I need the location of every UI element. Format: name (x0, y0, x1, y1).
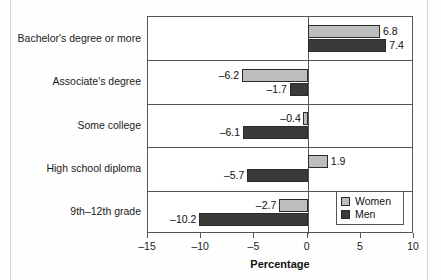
bar-value-label: 1.9 (331, 155, 346, 168)
category-label: High school diploma (5, 162, 141, 174)
x-axis-tick (253, 233, 254, 238)
bar-men[interactable] (243, 126, 308, 139)
bar-men[interactable] (247, 169, 308, 182)
legend-label: Men (355, 208, 375, 221)
x-axis-tick-label: –15 (138, 240, 156, 252)
x-axis-title: Percentage (147, 258, 413, 270)
bar-women[interactable] (303, 112, 307, 125)
bar-value-label: –5.7 (224, 169, 244, 182)
x-axis-tick-label: –10 (191, 240, 209, 252)
category-label: Bachelor's degree or more (5, 32, 141, 44)
bar-value-label: –2.7 (256, 199, 276, 212)
x-axis-tick (147, 233, 148, 238)
bar-value-label: –6.1 (220, 126, 240, 139)
bar-value-label: –6.2 (219, 69, 239, 82)
x-axis-tick (307, 233, 308, 238)
legend-swatch-icon (341, 210, 350, 219)
x-axis-tick (360, 233, 361, 238)
category-label: Associate's degree (5, 75, 141, 87)
row-separator (148, 104, 412, 105)
x-axis-tick (200, 233, 201, 238)
legend-item[interactable]: Women (341, 195, 399, 208)
chart-legend: WomenMen (336, 191, 404, 225)
bar-men[interactable] (199, 213, 308, 226)
bar-value-label: 7.4 (389, 39, 404, 52)
category-label: Some college (5, 119, 141, 131)
legend-label: Women (355, 195, 391, 208)
legend-item[interactable]: Men (341, 208, 399, 221)
category-label: 9th–12th grade (5, 205, 141, 217)
bar-men[interactable] (290, 83, 308, 96)
page-border-right (427, 0, 428, 280)
x-axis-tick-label: –5 (248, 240, 260, 252)
bar-value-label: 6.8 (383, 25, 398, 38)
legend-swatch-icon (341, 197, 350, 206)
bar-value-label: –10.2 (170, 213, 196, 226)
bar-women[interactable] (279, 199, 308, 212)
x-axis-tick-label: 10 (407, 240, 419, 252)
bar-men[interactable] (308, 39, 387, 52)
x-axis-tick (413, 233, 414, 238)
bar-value-label: –0.4 (280, 112, 300, 125)
x-axis-tick-label: 0 (304, 240, 310, 252)
row-separator (148, 147, 412, 148)
row-separator (148, 60, 412, 61)
bar-value-label: –1.7 (267, 83, 287, 96)
bar-women[interactable] (308, 155, 328, 168)
x-axis: –15–10–50510 (147, 233, 413, 234)
bar-women[interactable] (308, 25, 380, 38)
bar-women[interactable] (242, 69, 308, 82)
x-axis-tick-label: 5 (357, 240, 363, 252)
chart-page: Bachelor's degree or moreAssociate's deg… (0, 0, 441, 280)
category-axis-labels: Bachelor's degree or moreAssociate's deg… (0, 16, 141, 233)
